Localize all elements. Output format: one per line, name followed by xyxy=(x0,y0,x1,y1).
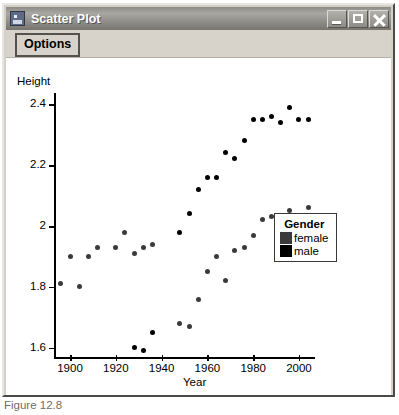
x-tick-mark xyxy=(162,355,164,361)
scatter-point xyxy=(296,117,301,122)
legend-label: male xyxy=(294,245,319,257)
y-tick-label: 2.4 xyxy=(8,97,46,109)
scatter-point xyxy=(132,251,137,256)
legend-label: female xyxy=(294,232,329,244)
scatter-point xyxy=(77,284,82,289)
x-tick-mark xyxy=(299,355,301,361)
x-tick-mark xyxy=(70,355,72,361)
scatter-point xyxy=(232,156,237,161)
y-tick-label: 2.2 xyxy=(8,158,46,170)
scatter-point xyxy=(150,242,155,247)
scatter-plot-window: Scatter Plot Options Height Year 1.61.82… xyxy=(2,3,395,397)
y-tick-mark xyxy=(49,104,55,106)
legend-title: Gender xyxy=(280,218,329,230)
options-menu-button[interactable]: Options xyxy=(15,33,80,57)
scatter-point xyxy=(132,345,137,350)
maximize-button[interactable] xyxy=(348,10,368,28)
scatter-point xyxy=(187,211,192,216)
x-axis-line xyxy=(54,357,315,359)
close-button[interactable] xyxy=(369,10,389,28)
scatter-point xyxy=(251,117,256,122)
y-tick-label: 1.8 xyxy=(8,280,46,292)
legend-entry: male xyxy=(280,245,329,257)
scatter-point xyxy=(306,117,311,122)
window-title-bar[interactable]: Scatter Plot xyxy=(6,7,391,30)
scatter-point xyxy=(232,248,237,253)
x-tick-label: 1940 xyxy=(140,362,184,374)
screenshot-root: Scatter Plot Options Height Year 1.61.82… xyxy=(0,0,399,415)
x-tick-mark xyxy=(207,355,209,361)
scatter-point xyxy=(196,187,201,192)
x-tick-mark xyxy=(116,355,118,361)
scatter-point xyxy=(223,278,228,283)
scatter-point xyxy=(150,330,155,335)
scatter-point xyxy=(58,281,63,286)
scatter-point xyxy=(269,114,274,119)
scatter-point xyxy=(278,120,283,125)
scatter-point xyxy=(223,150,228,155)
window-title: Scatter Plot xyxy=(31,12,326,26)
legend-entries: femalemale xyxy=(280,232,329,257)
figure-caption: Figure 12.8 xyxy=(4,399,62,413)
scatter-point xyxy=(141,245,146,250)
application-window-icon xyxy=(10,11,25,26)
scatter-point xyxy=(187,324,192,329)
scatter-point xyxy=(122,230,127,235)
x-tick-label: 1980 xyxy=(231,362,275,374)
y-tick-mark xyxy=(49,287,55,289)
scatter-point xyxy=(242,138,247,143)
x-tick-label: 1900 xyxy=(48,362,92,374)
menu-bar: Options xyxy=(6,30,391,58)
legend: Gender femalemale xyxy=(274,213,337,262)
scatter-point xyxy=(196,297,201,302)
x-tick-label: 1960 xyxy=(185,362,229,374)
chart-plot-area: Height Year 1.61.822.22.4 19001920194019… xyxy=(6,58,391,395)
y-tick-mark xyxy=(49,165,55,167)
y-axis-title: Height xyxy=(17,75,50,87)
x-axis-title: Year xyxy=(183,376,206,388)
scatter-point xyxy=(214,175,219,180)
scatter-point xyxy=(205,175,210,180)
scatter-point xyxy=(287,105,292,110)
legend-entry: female xyxy=(280,232,329,244)
scatter-point xyxy=(242,245,247,250)
scatter-point xyxy=(260,217,265,222)
scatter-point xyxy=(177,321,182,326)
y-tick-mark xyxy=(49,226,55,228)
scatter-point xyxy=(141,348,146,353)
scatter-point xyxy=(113,245,118,250)
y-tick-label: 2 xyxy=(8,219,46,231)
x-tick-label: 1920 xyxy=(94,362,138,374)
scatter-point xyxy=(205,269,210,274)
scatter-point xyxy=(260,117,265,122)
scatter-point xyxy=(68,254,73,259)
scatter-point xyxy=(177,230,182,235)
legend-swatch xyxy=(280,245,292,257)
minimize-button[interactable] xyxy=(327,10,347,28)
scatter-point xyxy=(95,245,100,250)
scatter-point xyxy=(306,205,311,210)
x-tick-label: 2000 xyxy=(277,362,321,374)
legend-swatch xyxy=(280,232,292,244)
scatter-point xyxy=(251,233,256,238)
scatter-point xyxy=(214,254,219,259)
scatter-point xyxy=(86,254,91,259)
x-tick-mark xyxy=(253,355,255,361)
y-tick-mark xyxy=(49,348,55,350)
y-tick-label: 1.6 xyxy=(8,341,46,353)
